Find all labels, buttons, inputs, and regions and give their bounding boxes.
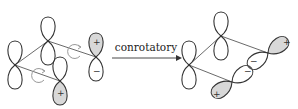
product-panel: + − − +	[182, 12, 292, 102]
plus-sign: +	[57, 88, 65, 98]
reaction-arrow: conrotatory	[112, 41, 182, 61]
p-orbital	[41, 17, 55, 65]
plus-sign: +	[283, 37, 291, 47]
rotation-arrow-icon	[32, 69, 45, 83]
minus-sign: −	[244, 66, 252, 76]
reactant-panel: + + −	[8, 17, 103, 105]
plus-sign: +	[93, 37, 101, 47]
p-orbital: + −	[89, 33, 103, 81]
minus-sign: −	[250, 56, 258, 66]
orbital-diagram: + + − conrotatory	[0, 0, 298, 109]
minus-sign: −	[93, 66, 101, 76]
reaction-label: conrotatory	[115, 41, 177, 53]
bond-line	[15, 41, 48, 65]
p-orbital	[214, 12, 228, 60]
plus-sign: +	[213, 89, 221, 99]
bond-line	[189, 36, 221, 65]
p-orbital	[8, 41, 22, 89]
p-orbital: +	[53, 57, 67, 105]
p-orbital	[182, 41, 196, 89]
